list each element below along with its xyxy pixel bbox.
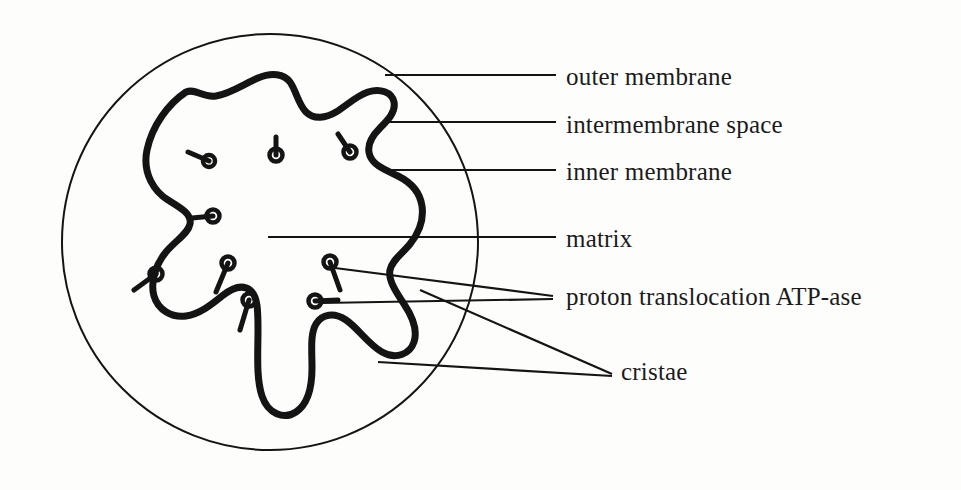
atp-ase-particle-group (134, 134, 357, 330)
atp-ase-leader-lower (322, 299, 553, 303)
label-inner-membrane: inner membrane (566, 159, 732, 184)
label-matrix: matrix (566, 226, 632, 251)
mitochondrion-diagram (0, 0, 961, 490)
label-cristae: cristae (621, 359, 688, 384)
label-outer-membrane: outer membrane (566, 64, 732, 89)
diagram-page: outer membrane intermembrane space inner… (0, 0, 961, 490)
label-intermembrane-space: intermembrane space (566, 112, 783, 137)
atp-ase-stalk (192, 216, 213, 218)
inner-membrane-path (146, 75, 422, 416)
cristae-leader-lower (378, 362, 612, 376)
label-proton-translocation-atp-ase: proton translocation ATP-ase (566, 284, 862, 309)
atp-ase-leader-upper (335, 268, 553, 296)
atp-ase-stalk (315, 300, 338, 301)
